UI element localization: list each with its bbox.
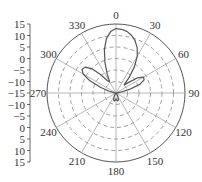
polar-chart: 151050−5−10−15−10−5051015 03060901201501… — [0, 0, 202, 182]
radial-tick-label: −15 — [8, 87, 26, 99]
radial-tick-label: 15 — [14, 156, 26, 168]
pattern-curve — [82, 29, 144, 101]
radial-axis: 151050−5−10−15−10−5051015 — [8, 18, 30, 168]
angle-tick-label: 30 — [150, 19, 162, 31]
radial-tick-label: 5 — [20, 41, 26, 53]
grid-spoke — [82, 33, 117, 93]
angle-tick-label: 90 — [189, 87, 201, 99]
radial-tick-label: 5 — [20, 133, 26, 145]
grid-spoke — [116, 59, 176, 94]
radial-tick-label: 15 — [14, 18, 26, 30]
angle-tick-label: 270 — [30, 87, 47, 99]
radial-tick-label: −10 — [8, 99, 26, 111]
grid-spoke — [82, 93, 117, 153]
angle-tick-label: 300 — [40, 48, 57, 60]
angle-tick-label: 60 — [178, 48, 190, 60]
radial-tick-label: 0 — [20, 122, 26, 134]
angle-tick-label: 0 — [113, 9, 119, 21]
radial-tick-label: 10 — [14, 145, 26, 157]
angle-tick-label: 240 — [40, 126, 57, 138]
angle-tick-label: 180 — [108, 165, 125, 177]
angle-tick-label: 210 — [69, 155, 86, 167]
grid-spoke — [116, 33, 151, 93]
radial-tick-label: −5 — [13, 110, 25, 122]
radial-tick-label: −5 — [13, 64, 25, 76]
grid-spoke — [56, 93, 116, 128]
radial-tick-label: 10 — [14, 30, 26, 42]
angle-tick-label: 120 — [175, 126, 192, 138]
radial-tick-label: −10 — [8, 76, 26, 88]
data-series — [82, 29, 144, 101]
grid-spoke — [116, 93, 176, 128]
radial-tick-label: 0 — [20, 53, 26, 65]
angle-tick-label: 150 — [147, 155, 164, 167]
grid-spoke — [116, 93, 151, 153]
grid-spoke — [56, 59, 116, 94]
angle-tick-label: 330 — [69, 19, 86, 31]
